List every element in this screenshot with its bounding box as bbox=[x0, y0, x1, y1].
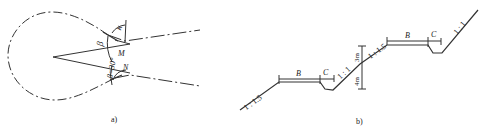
ditch-low-label: C bbox=[323, 68, 329, 77]
lower-road-edge bbox=[115, 75, 200, 86]
caption-a: a) bbox=[111, 115, 118, 124]
bench-high-label: B bbox=[405, 31, 410, 40]
figure-canvas: κ β M β=30° N a) 1 : 1.5 B C 1 : 1 3m 4m… bbox=[0, 0, 486, 137]
center-line-lower bbox=[53, 57, 130, 73]
beta-label: β bbox=[94, 40, 105, 48]
slope-mid-upper-label: 1 : 1.5 bbox=[366, 42, 388, 61]
panel-a bbox=[8, 12, 200, 100]
caption-b: b) bbox=[356, 117, 363, 126]
height-upper-label: 3m bbox=[353, 53, 361, 63]
ditch-high-label: C bbox=[431, 30, 437, 39]
height-lower-label: 4m bbox=[353, 77, 361, 87]
slope-low-label: 1 : 1.5 bbox=[242, 93, 264, 112]
kappa-label: κ bbox=[113, 23, 124, 31]
N-label: N bbox=[122, 63, 129, 72]
beta30-label: β=30° bbox=[105, 56, 118, 80]
M-label: M bbox=[117, 49, 126, 58]
slope-mid-lower-label: 1 : 1 bbox=[336, 65, 353, 81]
slope-top-label: 1 : 1 bbox=[452, 20, 468, 37]
bench-low-label: B bbox=[296, 69, 301, 78]
